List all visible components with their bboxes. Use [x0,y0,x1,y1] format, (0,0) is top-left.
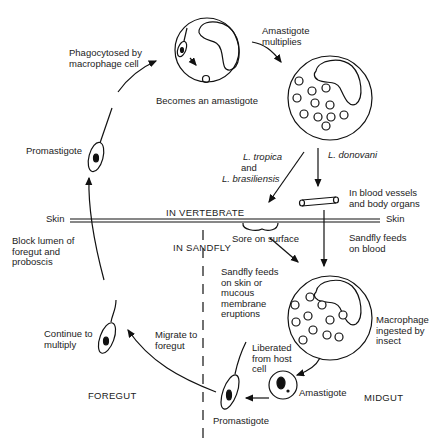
sore-icon [243,223,278,230]
label-l-tropica: L. tropica [243,152,282,163]
macrophage-multiplying-icon [288,56,372,140]
label-continue-multiply: Continue to multiply [44,329,93,350]
label-macrophage-ingested: Macrophage ingested by insect [376,315,429,347]
label-promastigote-top: Promastigote [26,146,82,157]
label-amastigote: Amastigote [299,388,347,399]
label-skin-left: Skin [46,214,64,225]
skin-line [70,219,380,222]
label-sandfly-feeds-skin: Sandfly feeds on skin or mucous membrane… [221,267,279,320]
label-sore: Sore on surface [232,234,299,245]
label-and: and [241,163,257,174]
region-vertebrate: IN VERTEBRATE [166,208,245,219]
label-blood-vessels: In blood vessels and body organs [349,188,420,209]
label-amastigote-multiplies: Amastigote multiplies [262,26,310,47]
label-sandfly-feeds-blood: Sandfly feeds on blood [349,233,407,254]
promastigote-continue-icon [95,300,119,355]
promastigote-top-icon [85,108,112,173]
label-skin-right: Skin [386,214,404,225]
label-migrate-foregut: Migrate to foregut [155,330,197,351]
leishmania-life-cycle-diagram: Phagocytosed by macrophage cell Becomes … [0,0,437,442]
label-l-brasiliensis: L. brasiliensis [222,174,280,185]
blood-vessel-icon [300,197,339,206]
region-foregut: FOREGUT [88,391,137,402]
label-l-donovani: L. donovani [328,150,377,161]
label-phagocytosed: Phagocytosed by macrophage cell [69,48,142,69]
diagram-graphics [0,0,437,442]
label-block-lumen: Block lumen of foregut and proboscis [12,236,74,268]
label-becomes-amastigote: Becomes an amastigote [156,96,258,107]
label-liberated: Liberated from host cell [252,343,292,375]
promastigote-bottom-icon [217,342,246,411]
macrophage-top-icon [175,18,239,83]
macrophage-midgut-icon [288,276,372,360]
region-midgut: MIDGUT [364,393,403,404]
label-promastigote-bottom: Promastigote [213,416,269,427]
amastigote-free-icon [269,371,297,399]
region-sandfly: IN SANDFLY [173,243,231,254]
